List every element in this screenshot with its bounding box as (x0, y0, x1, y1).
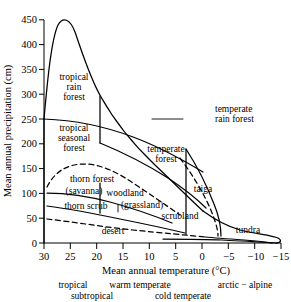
x-tick-label-m10: −10 (248, 251, 264, 262)
y-tick-label-200: 200 (21, 138, 37, 149)
label-temperate-rain-forest-line2: rain forest (215, 114, 254, 124)
label-tropical-rain-forest-line3: forest (63, 92, 85, 102)
y-tick-label-50: 50 (27, 213, 38, 224)
y-tick-label-100: 100 (21, 188, 37, 199)
label-grassland: (grassland) (121, 200, 163, 211)
label-thorn-scrub: thorn scrub (64, 201, 107, 211)
x-tick-label-0: 0 (199, 251, 204, 262)
y-tick-label-450: 450 (21, 14, 37, 25)
zone-warm-temperate: warm temperate (109, 280, 170, 290)
x-tick-label-5: 5 (173, 251, 178, 262)
y-tick-label-350: 350 (21, 64, 37, 75)
zone-subtropical: subtropical (71, 291, 114, 301)
y-tick-label-400: 400 (21, 39, 37, 50)
y-axis-title: Mean annual precipitation (cm) (2, 64, 14, 197)
y-tick-label-300: 300 (21, 89, 37, 100)
label-taiga: taiga (194, 184, 213, 194)
whittaker-biome-chart: 0 50 100 150 200 250 300 350 400 450 Mea… (0, 0, 291, 302)
label-tropical-seasonal-forest-line1: tropical (59, 123, 88, 133)
x-tick-label-20: 20 (91, 251, 102, 262)
chart-svg: 0 50 100 150 200 250 300 350 400 450 Mea… (0, 0, 291, 302)
label-savanna: (savanna) (66, 186, 103, 197)
y-tick-label-150: 150 (21, 163, 37, 174)
zone-cold-temperate: cold temperate (155, 291, 211, 301)
x-tick-label-25: 25 (65, 251, 76, 262)
label-woodland: woodland (106, 188, 144, 198)
zone-tropical: tropical (58, 280, 87, 290)
label-scrubland: scrubland (162, 211, 199, 221)
label-desert: desert (102, 226, 125, 236)
y-tick-label-250: 250 (21, 114, 37, 125)
x-tick-label-m5: −5 (223, 251, 234, 262)
x-axis-title: Mean annual temperature (°C) (102, 265, 231, 277)
x-tick-label-10: 10 (144, 251, 155, 262)
label-tropical-rain-forest-line1: tropical (59, 72, 88, 82)
label-temperate-rain-forest-line1: temperate (215, 104, 252, 114)
label-thorn-forest: thorn forest (70, 174, 114, 184)
x-tick-label-m15: −15 (273, 251, 289, 262)
label-tropical-rain-forest-line2: rain (67, 82, 82, 92)
label-temperate-forest-line1: temperate (147, 144, 184, 154)
label-tropical-seasonal-forest-line3: forest (63, 143, 85, 153)
x-tick-label-30: 30 (39, 251, 50, 262)
label-tundra: tundra (236, 225, 261, 235)
x-tick-label-15: 15 (118, 251, 129, 262)
label-temperate-forest-line2: forest (155, 154, 177, 164)
zone-arctic-alpine: arctic − alpine (218, 280, 272, 290)
label-tropical-seasonal-forest-line2: seasonal (58, 133, 91, 143)
y-tick-label-0: 0 (32, 238, 37, 249)
